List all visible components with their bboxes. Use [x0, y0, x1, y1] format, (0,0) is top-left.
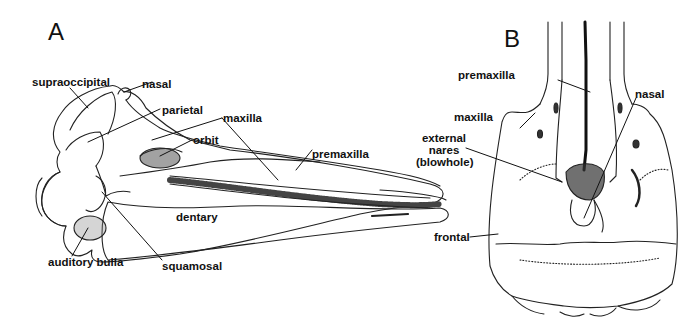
label-orbit: orbit: [193, 134, 219, 146]
leader-nasal-b: [584, 98, 636, 218]
label-external-nares-line1: external: [416, 132, 472, 144]
auditory-bulla-shape: [74, 216, 106, 240]
label-squamosal: squamosal: [162, 260, 222, 272]
label-external-nares-line3: (blowhole): [416, 156, 472, 168]
occipital-condyle: [42, 172, 66, 226]
squamosal-process: [86, 176, 106, 212]
mesorostral-groove: [584, 22, 586, 170]
blowhole: [566, 164, 604, 200]
label-maxilla-b: maxilla: [454, 111, 493, 123]
leader-maxilla-b: [520, 113, 535, 128]
leader-supraoccipital: [70, 88, 88, 108]
leader-squamosal: [102, 192, 162, 260]
leader-frontal: [470, 234, 498, 237]
label-nasal-b: nasal: [635, 88, 664, 100]
label-dentary: dentary: [176, 211, 218, 223]
label-frontal: frontal: [434, 231, 470, 243]
label-auditory-bulla: auditory bulla: [48, 256, 123, 268]
skull-drawing: [0, 0, 696, 322]
dolphin-skull-diagram: A B supraoccipital nasal parietal maxill…: [0, 0, 696, 322]
leader-maxilla-a2: [222, 118, 278, 180]
frontal-suture: [496, 241, 676, 244]
orbit: [140, 148, 180, 168]
panel-label-b: B: [504, 25, 520, 53]
label-supraoccipital: supraoccipital: [32, 76, 110, 88]
leader-nares: [466, 148, 562, 182]
panel-label-a: A: [48, 18, 64, 46]
label-parietal: parietal: [162, 104, 203, 116]
label-premaxilla-a: premaxilla: [312, 148, 369, 160]
label-external-nares: external nares (blowhole): [416, 132, 472, 168]
skull-b-outline: [489, 104, 677, 308]
leader-parietal: [88, 109, 160, 142]
label-premaxilla-b: premaxilla: [458, 69, 515, 81]
tooth-row: [170, 180, 440, 205]
label-external-nares-line2: nares: [416, 144, 472, 156]
label-maxilla-a: maxilla: [223, 112, 262, 124]
label-nasal-a: nasal: [142, 78, 171, 90]
